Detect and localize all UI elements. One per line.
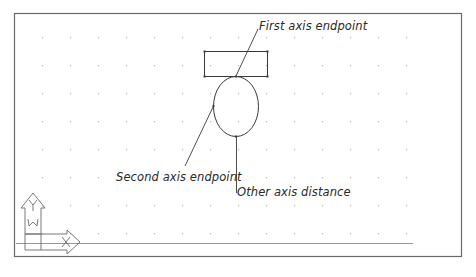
drawing-canvas[interactable] <box>0 0 476 277</box>
grid-dot <box>238 65 239 66</box>
grid-dot <box>322 149 323 150</box>
grid-dot <box>350 65 351 66</box>
grid-dot <box>294 177 295 178</box>
grid-dot <box>238 37 239 38</box>
ellipse-shape[interactable] <box>214 77 259 137</box>
grid-dot <box>266 233 267 234</box>
grid-dot <box>42 37 43 38</box>
grid-dot <box>322 93 323 94</box>
grid-dot <box>350 149 351 150</box>
grid-dot <box>406 65 407 66</box>
grid-dot <box>266 205 267 206</box>
grid-dot <box>350 37 351 38</box>
grid-dot <box>406 93 407 94</box>
grid-dot <box>154 205 155 206</box>
grid-dot <box>294 205 295 206</box>
grid-dot <box>406 205 407 206</box>
grid-dot <box>210 149 211 150</box>
grid-dot <box>294 233 295 234</box>
grid-dot <box>406 121 407 122</box>
grid-dot <box>126 93 127 94</box>
grid-dot <box>378 93 379 94</box>
grid-dot <box>238 233 239 234</box>
grid-dot <box>406 177 407 178</box>
grid-dot <box>70 37 71 38</box>
grid-dot <box>210 205 211 206</box>
grid-dot <box>238 121 239 122</box>
grid-dot <box>238 93 239 94</box>
grid-dot <box>126 121 127 122</box>
grid-dot <box>154 93 155 94</box>
grid-dot <box>42 121 43 122</box>
grid-dot <box>98 65 99 66</box>
grid-dot <box>350 93 351 94</box>
grid-dot <box>378 121 379 122</box>
grid-dot <box>378 233 379 234</box>
rectangle-vertex-marks <box>204 51 269 78</box>
grid-dot <box>182 149 183 150</box>
grid-dot <box>322 65 323 66</box>
grid-dot <box>154 37 155 38</box>
grid-dot <box>210 93 211 94</box>
grid-dot <box>294 149 295 150</box>
grid-dot <box>210 37 211 38</box>
grid-dot <box>294 65 295 66</box>
grid-dots <box>42 37 407 234</box>
grid-dot <box>98 205 99 206</box>
grid-dot <box>98 37 99 38</box>
grid-dot <box>126 233 127 234</box>
grid-dot <box>210 233 211 234</box>
leader-second-axis-endpoint <box>185 106 214 166</box>
grid-dot <box>182 65 183 66</box>
grid-dot <box>266 37 267 38</box>
grid-dot <box>42 149 43 150</box>
grid-dot <box>98 233 99 234</box>
grid-dot <box>126 205 127 206</box>
grid-dot <box>98 121 99 122</box>
grid-dot <box>350 233 351 234</box>
grid-dot <box>294 93 295 94</box>
grid-dot <box>154 121 155 122</box>
grid-dot <box>322 177 323 178</box>
grid-dot <box>266 177 267 178</box>
grid-dot <box>154 65 155 66</box>
grid-dot <box>378 149 379 150</box>
grid-dot <box>322 121 323 122</box>
grid-dot <box>126 149 127 150</box>
grid-dot <box>182 37 183 38</box>
grid-dot <box>406 37 407 38</box>
grid-dot <box>70 65 71 66</box>
grid-dot <box>182 233 183 234</box>
grid-dot <box>266 93 267 94</box>
ucs-icon <box>21 193 80 254</box>
grid-dot <box>294 121 295 122</box>
label-other-axis-distance: Other axis distance <box>237 185 351 199</box>
grid-dot <box>126 65 127 66</box>
grid-dot <box>70 93 71 94</box>
grid-dot <box>210 65 211 66</box>
grid-dot <box>182 205 183 206</box>
grid-dot <box>98 149 99 150</box>
grid-dot <box>406 149 407 150</box>
grid-dot <box>98 177 99 178</box>
grid-dot <box>182 121 183 122</box>
grid-dot <box>126 37 127 38</box>
grid-dot <box>266 149 267 150</box>
label-second-axis-endpoint: Second axis endpoint <box>116 170 242 184</box>
grid-dot <box>294 37 295 38</box>
grid-dot <box>378 65 379 66</box>
grid-dot <box>238 205 239 206</box>
drawing-frame <box>15 14 462 257</box>
grid-dot <box>378 177 379 178</box>
grid-dot <box>238 149 239 150</box>
grid-dot <box>350 177 351 178</box>
grid-dot <box>42 177 43 178</box>
grid-dot <box>210 121 211 122</box>
grid-dot <box>322 233 323 234</box>
ellipse-point-marks <box>213 76 238 138</box>
grid-dot <box>70 149 71 150</box>
grid-dot <box>378 37 379 38</box>
grid-dot <box>350 121 351 122</box>
grid-dot <box>70 205 71 206</box>
rectangle-shape[interactable] <box>205 52 268 77</box>
